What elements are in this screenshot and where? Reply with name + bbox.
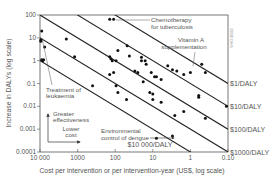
data-point xyxy=(182,110,185,113)
iso-cost-label: $100/DALY xyxy=(230,126,266,133)
iso-cost-line-labels: $1/DALY$10/DALY$100/DALY$1000/DALY$10 00… xyxy=(127,80,269,156)
iso-cost-label: $1000/DALY xyxy=(230,149,270,156)
data-point xyxy=(91,84,94,87)
data-point xyxy=(151,92,154,95)
x-tick-label: 10 xyxy=(149,154,157,161)
data-point xyxy=(225,105,228,108)
data-point xyxy=(128,55,131,58)
data-point xyxy=(40,29,43,32)
iso-cost-label: $10 000/DALY xyxy=(127,141,172,148)
data-point xyxy=(171,135,174,138)
data-point xyxy=(145,63,148,66)
data-point xyxy=(160,78,163,81)
data-point xyxy=(42,58,45,61)
data-point xyxy=(200,63,203,66)
data-point xyxy=(150,71,153,74)
x-tick-label: 1000 xyxy=(70,154,85,161)
annotation-dengue: Environmental control of dengue xyxy=(101,127,174,141)
annotation-label: supplementation xyxy=(161,43,207,50)
data-point xyxy=(175,70,178,73)
data-point xyxy=(144,59,147,62)
annotation-direction: Greater effectiveness Lower cost xyxy=(48,110,89,142)
data-point xyxy=(116,91,119,94)
annotation-label: effectiveness xyxy=(53,116,89,123)
data-point xyxy=(148,91,151,94)
data-point xyxy=(140,59,143,62)
data-point xyxy=(125,98,128,101)
data-point xyxy=(65,37,68,40)
annotation-label: Environmental xyxy=(101,127,141,134)
data-point xyxy=(115,84,118,87)
data-point xyxy=(73,55,76,58)
credit-label: WHO 99302 xyxy=(230,28,234,47)
annotation-vitamin-a: Vitamin A supplementation xyxy=(161,36,207,66)
data-point xyxy=(142,80,145,83)
data-point xyxy=(140,56,143,59)
annotation-label: Vitamin A xyxy=(178,36,205,43)
annotation-leukaemia: Treatment of leukaemia xyxy=(42,38,81,99)
data-point xyxy=(136,71,139,74)
x-axis-title: Cost per intervention or per interventio… xyxy=(39,167,224,175)
iso-cost-label: $1/DALY xyxy=(230,80,258,87)
y-tick-label: 0.001 xyxy=(20,125,37,132)
annotation-label: cost xyxy=(65,131,77,138)
annotation-label: leukaemia xyxy=(46,92,75,99)
x-tick-label: 10 000 xyxy=(30,154,50,161)
y-tick-label: 10 xyxy=(29,34,37,41)
data-point xyxy=(155,75,158,78)
data-point xyxy=(115,59,118,62)
y-tick-label: 0.1 xyxy=(27,80,36,87)
data-point xyxy=(160,101,163,104)
x-tick-label: 1 xyxy=(189,154,193,161)
data-point xyxy=(112,18,115,21)
data-point xyxy=(173,114,176,117)
x-axis: 10 00010001001010.10 xyxy=(30,149,235,161)
data-point xyxy=(108,73,111,76)
data-point xyxy=(112,71,115,74)
data-point xyxy=(126,44,129,47)
data-point xyxy=(204,117,207,120)
y-tick-label: 0.01 xyxy=(23,102,36,109)
data-point xyxy=(182,73,185,76)
annotation-label: for tuberculosis xyxy=(151,23,193,30)
x-tick-label: 100 xyxy=(110,154,121,161)
y-tick-label: 1 xyxy=(32,57,36,64)
data-point xyxy=(171,68,174,71)
data-point xyxy=(166,64,169,67)
y-axis-title: Increase in DALYs (log scale) xyxy=(5,38,13,127)
annotation-label: control of dengue xyxy=(101,134,149,141)
data-point xyxy=(204,71,207,74)
cost-effectiveness-chart: 1001010.10.010.0010.0001 10 000100010010… xyxy=(0,0,278,178)
data-point xyxy=(111,59,114,62)
data-point xyxy=(116,49,119,52)
data-point xyxy=(197,96,200,99)
data-point xyxy=(133,70,136,73)
y-tick-label: 100 xyxy=(25,11,36,18)
data-point xyxy=(151,98,154,101)
iso-cost-label: $10/DALY xyxy=(230,103,262,110)
annotation-label: Chemotherapy xyxy=(151,16,192,23)
y-axis: 1001010.10.010.0010.0001 xyxy=(16,11,40,155)
data-point xyxy=(189,71,192,74)
data-point xyxy=(39,40,42,43)
data-point xyxy=(108,18,111,21)
